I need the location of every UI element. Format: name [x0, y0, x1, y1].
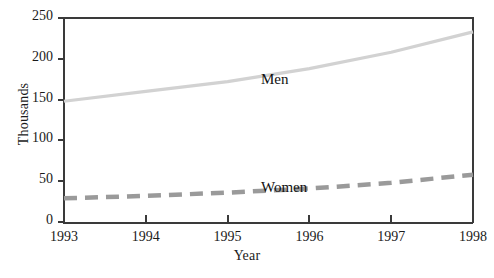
series-label-men: Men: [261, 71, 289, 88]
series-line-men: [64, 32, 473, 101]
series-label-women: Women: [261, 179, 307, 196]
x-axis-tick-label: 1997: [377, 229, 405, 245]
x-axis-tick-label: 1994: [132, 229, 160, 245]
axis-line-bottom: [63, 222, 473, 224]
x-axis-tick-label: 1995: [214, 229, 242, 245]
y-axis-tick-label: 200: [32, 49, 53, 65]
chart-figure: Thousands 050100150200250 19931994199519…: [0, 0, 494, 278]
y-axis-tick-label: 50: [39, 171, 53, 187]
y-axis-tick-label: 150: [32, 90, 53, 106]
x-axis-tick-label: 1998: [459, 229, 487, 245]
x-axis-tick-label: 1996: [295, 229, 323, 245]
y-axis-tick-label: 100: [32, 130, 53, 146]
y-axis-title: Thousands: [16, 54, 32, 174]
y-axis-tick-label: 250: [32, 8, 53, 24]
x-axis-title: Year: [0, 248, 494, 264]
y-axis-tick-label: 0: [46, 212, 53, 228]
plot-area: 050100150200250 199319941995199619971998…: [64, 18, 473, 222]
x-axis-tick-label: 1993: [50, 229, 78, 245]
